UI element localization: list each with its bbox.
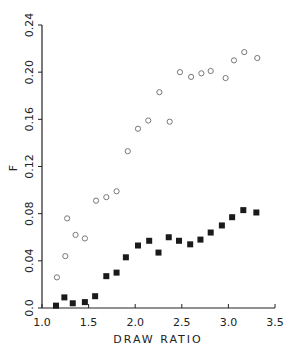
data-point-square (70, 300, 76, 306)
data-point-circle (146, 118, 151, 123)
data-point-circle (135, 126, 140, 131)
data-point-square (135, 243, 141, 249)
y-tick-label: 0.08 (23, 201, 36, 226)
data-point-circle (208, 68, 213, 73)
x-tick-label: 3.5 (266, 316, 284, 329)
scatter-chart: 0.00.040.080.120.160.200.24 1.01.52.02.5… (0, 0, 293, 350)
data-point-circle (177, 70, 182, 75)
data-point-circle (82, 236, 87, 241)
data-point-square (53, 303, 59, 309)
x-tick-label: 1.5 (80, 316, 98, 329)
data-point-circle (223, 75, 228, 80)
data-point-square (166, 234, 172, 240)
data-point-square (208, 230, 214, 236)
data-point-circle (65, 216, 70, 221)
series-open-circles (54, 50, 260, 280)
y-tick-label: 0.12 (23, 154, 36, 179)
y-tick-label: 0.24 (23, 13, 36, 38)
data-point-square (82, 299, 88, 305)
data-point-square (123, 254, 129, 260)
data-point-square (156, 250, 162, 256)
x-tick-label: 1.0 (33, 316, 51, 329)
data-point-square (219, 222, 225, 228)
data-point-circle (255, 55, 260, 60)
data-point-circle (242, 50, 247, 55)
axes (42, 25, 275, 308)
x-tick-label: 3.0 (220, 316, 238, 329)
data-point-circle (189, 74, 194, 79)
data-point-square (61, 294, 67, 300)
data-point-circle (114, 189, 119, 194)
data-point-square (197, 237, 203, 243)
data-point-square (114, 270, 120, 276)
y-axis-title: F (7, 163, 20, 171)
data-point-circle (104, 195, 109, 200)
y-axis-ticks: 0.00.040.080.120.160.200.24 (23, 13, 42, 317)
y-tick-label: 0.20 (23, 60, 36, 85)
y-tick-label: 0.0 (23, 299, 36, 317)
y-tick-label: 0.16 (23, 107, 36, 132)
data-point-circle (93, 198, 98, 203)
data-point-circle (125, 149, 130, 154)
data-point-circle (73, 232, 78, 237)
data-point-circle (54, 275, 59, 280)
data-point-circle (63, 254, 68, 259)
series-filled-squares (53, 207, 259, 309)
x-tick-label: 2.5 (173, 316, 191, 329)
x-axis-title: DRAW RATIO (113, 333, 202, 346)
data-point-square (146, 238, 152, 244)
data-point-square (229, 214, 235, 220)
data-point-square (103, 273, 109, 279)
y-tick-label: 0.04 (23, 249, 36, 274)
data-point-circle (157, 90, 162, 95)
data-point-square (176, 238, 182, 244)
data-point-circle (231, 58, 236, 63)
data-point-square (187, 241, 193, 247)
x-tick-label: 2.0 (126, 316, 144, 329)
data-point-square (240, 207, 246, 213)
data-point-circle (167, 119, 172, 124)
data-point-circle (199, 71, 204, 76)
data-point-square (92, 293, 98, 299)
data-point-square (253, 209, 259, 215)
